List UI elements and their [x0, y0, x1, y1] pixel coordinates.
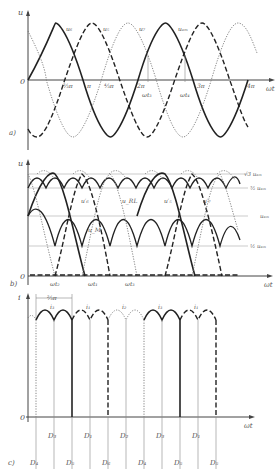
level-label-sqrt3: √3 uₑₘ [244, 171, 262, 177]
current-label-2: i₁ [86, 303, 90, 310]
interval-label: ⅔π [47, 294, 58, 301]
tick-pi: π [86, 82, 92, 89]
curve-label-u6p: u′₆ [81, 197, 89, 204]
diode-lower-5: D₅ [173, 459, 183, 467]
x-axis-label-a: ωt [266, 85, 275, 93]
marker-label-wt3-b: ωt₃ [125, 280, 135, 287]
y-axis-label-c: i [18, 293, 21, 302]
current-label-4: i₃ [158, 303, 163, 310]
marker-label-wt2: ωt₂ [50, 280, 60, 287]
y-axis-arrow-icon [26, 159, 30, 165]
diode-lower-6: D₅ [209, 459, 219, 467]
current-block-1 [28, 310, 72, 417]
diode-lower-1: D₄ [29, 459, 39, 467]
origin-label-b: 0 [20, 272, 25, 281]
current-label-5: i₁ [194, 303, 198, 310]
diode-upper-2: D₁ [83, 432, 93, 440]
panel-a: u 0 u₆ u₅ u₇ uₑₘ ⅔π π ⁴⁄₃π 2π ωt₃ ωt₄ 3π… [9, 8, 275, 150]
curve-uRL-ripple-alt [37, 171, 235, 180]
level-label-three-half: ³⁄₂ uₑₘ [250, 185, 266, 191]
diode-upper-5: D₁ [191, 432, 201, 440]
current-label-3: i₂ [122, 303, 127, 310]
curve-label-uem: uₑₘ [178, 25, 188, 32]
x-axis-arrow-icon [249, 415, 255, 419]
curve-label-uM: u_M [88, 226, 102, 234]
curve-label-u5: u₅ [103, 25, 110, 32]
x-axis-label-c: ωt [244, 422, 253, 430]
y-axis-label-a: u [18, 8, 23, 17]
x-axis-arrow-icon [269, 78, 275, 82]
origin-label-c: 0 [20, 413, 25, 422]
y-axis-label-b: u [18, 159, 23, 168]
diode-upper-4: D₃ [155, 432, 165, 440]
y-axis-arrow-icon [26, 10, 30, 16]
tick-2pi: 2π [136, 82, 146, 89]
diode-upper-3: D₂ [119, 432, 129, 440]
curve-u6p [28, 173, 85, 276]
panel-c: ⅔π [8, 293, 255, 469]
tick-four-thirds-pi: ⁴⁄₃π [104, 82, 115, 89]
tick-4pi: 4π [246, 82, 256, 89]
diode-lower-2: D₅ [65, 459, 75, 467]
curve-label-u7: u₇ [139, 25, 146, 32]
curve-label-uRL: u_RL [122, 197, 137, 205]
diode-upper-1: D₃ [47, 432, 57, 440]
origin-label-a: 0 [20, 77, 25, 86]
curve-label-u7p: u′₇ [203, 197, 211, 204]
panel-label-b: b) [10, 280, 17, 288]
diode-lower-4: D₄ [137, 459, 147, 467]
marker-label-wt4: ωt₄ [180, 91, 190, 98]
x-axis-arrow-icon [267, 274, 273, 278]
panel-b: u 0 √3 uₑₘ ³⁄₂ uₑₘ uₑₘ ½ uₑₘ u′₆ u_RL u′… [10, 159, 273, 289]
diode-lower-3: D₆ [101, 459, 111, 467]
three-phase-rectifier-diagram: u 0 u₆ u₅ u₇ uₑₘ ⅔π π ⁴⁄₃π 2π ωt₃ ωt₄ 3π… [0, 0, 280, 469]
curve-u5p [55, 174, 222, 276]
panel-label-a: a) [9, 129, 16, 137]
curve-label-u6: u₆ [66, 25, 73, 32]
x-axis-label-b: ωt [264, 281, 273, 289]
marker-label-wt1: ωt₁ [88, 280, 98, 287]
current-label-1: i₃ [50, 303, 55, 310]
tick-two-thirds-pi: ⅔π [63, 82, 74, 89]
curve-u6p-2 [137, 173, 195, 276]
y-axis-arrow-icon [26, 293, 30, 299]
tick-3pi: 3π [197, 82, 206, 89]
marker-label-wt3: ωt₃ [142, 91, 152, 98]
curve-label-u5p: u′₅ [164, 197, 172, 204]
level-label-one: uₑₘ [260, 213, 269, 219]
level-label-half: ½ uₑₘ [250, 243, 266, 249]
panel-label-c: c) [8, 459, 15, 467]
